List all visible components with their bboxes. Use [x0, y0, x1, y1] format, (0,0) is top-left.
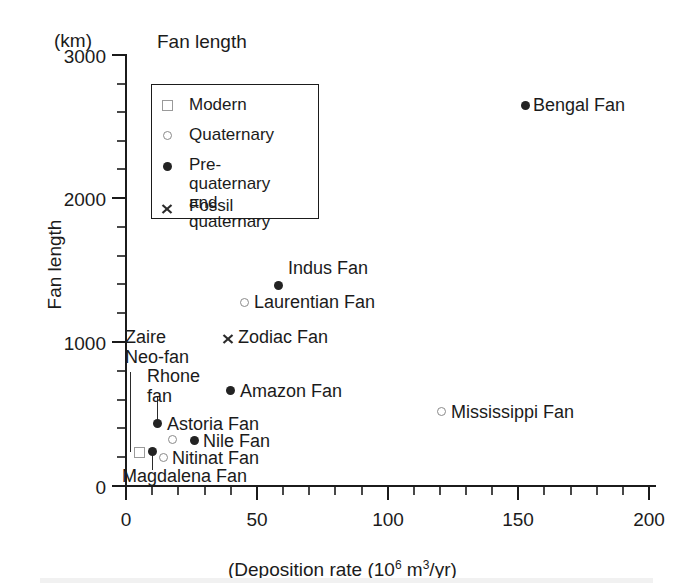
data-point-nitinat[interactable]	[159, 453, 168, 462]
data-point-zodiac[interactable]	[222, 331, 234, 343]
y-axis-title: Fan length	[45, 205, 64, 325]
chart-legend: Modern Quaternary Pre-quaternary and qua…	[151, 84, 319, 219]
data-label-magdalena: Magdalena Fan	[122, 466, 247, 486]
x-tick-label-0: 0	[91, 510, 161, 529]
chart-title: Fan length	[157, 32, 247, 51]
y-tick-label-3000: 3000	[36, 47, 106, 66]
data-label-zaire-neofan: Zaire Neo-fan	[125, 327, 189, 367]
data-label-indus: Indus Fan	[288, 258, 368, 278]
data-point-rhone[interactable]	[168, 435, 177, 444]
data-point-zaire-neofan[interactable]	[134, 447, 145, 458]
data-label-amazon: Amazon Fan	[240, 381, 342, 401]
leader-line-zaire	[130, 372, 131, 452]
x-axis-title: (Deposition rate (106 m3/yr)	[228, 559, 457, 579]
legend-label-pre-quaternary: Pre-quaternary and quaternary	[189, 155, 270, 231]
filled-circle-icon	[163, 162, 172, 171]
cross-icon	[161, 200, 173, 212]
x-tick-label-100: 100	[353, 510, 423, 529]
data-label-laurentian: Laurentian Fan	[254, 292, 375, 312]
legend-label-modern: Modern	[189, 95, 247, 114]
open-square-icon	[162, 100, 173, 111]
open-circle-icon	[163, 131, 172, 140]
data-point-magdalena[interactable]	[148, 447, 157, 456]
y-tick-label-0: 0	[36, 478, 106, 497]
data-point-bengal[interactable]	[521, 101, 530, 110]
y-tick-label-2000: 2000	[36, 190, 106, 209]
data-point-amazon[interactable]	[226, 386, 235, 395]
legend-label-fossil: Fossil	[189, 196, 233, 215]
data-point-mississippi[interactable]	[437, 407, 446, 416]
data-label-zodiac: Zodiac Fan	[238, 327, 328, 347]
x-axis-title-exp-6: 6	[395, 558, 402, 572]
x-tick-label-50: 50	[222, 510, 292, 529]
bottom-edge-artifact	[40, 578, 653, 583]
data-point-astoria[interactable]	[153, 419, 162, 428]
data-point-nile[interactable]	[190, 436, 199, 445]
y-tick-label-1000: 1000	[36, 334, 106, 353]
data-label-rhone: Rhone fan	[147, 366, 200, 406]
data-label-mississippi: Mississippi Fan	[451, 402, 574, 422]
x-tick-label-200: 200	[614, 510, 684, 529]
legend-label-quaternary: Quaternary	[189, 125, 274, 144]
data-point-indus[interactable]	[274, 281, 283, 290]
data-label-bengal: Bengal Fan	[533, 95, 625, 115]
scatter-chart: (km) Fan length Fan length (Deposition r…	[0, 0, 693, 587]
x-tick-label-150: 150	[483, 510, 553, 529]
data-point-laurentian[interactable]	[240, 298, 249, 307]
